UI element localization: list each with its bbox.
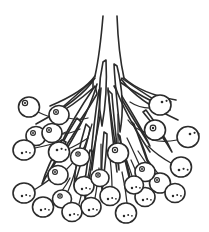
berry xyxy=(71,148,90,166)
berry-speck-dot xyxy=(142,199,144,201)
berry-hilum-dot xyxy=(156,179,158,181)
berry-speck-dot xyxy=(69,214,71,216)
berry-outline xyxy=(71,148,90,166)
berry xyxy=(48,166,68,185)
berry-speck-dot xyxy=(176,194,178,196)
berry-outline xyxy=(177,127,199,148)
berry-speck-dot xyxy=(187,169,189,171)
berry-outline xyxy=(42,124,62,143)
berry xyxy=(165,184,185,203)
berry-hilum-dot xyxy=(48,129,50,131)
berry-outline xyxy=(13,183,35,203)
berry-outline xyxy=(125,176,144,194)
berry-hilum-dot xyxy=(55,111,57,113)
berry-speck-dot xyxy=(81,188,83,190)
berry-speck-dot xyxy=(40,209,42,211)
berry-hilum-dot xyxy=(59,195,61,197)
berry-speck-dot xyxy=(107,198,109,200)
berry-outline xyxy=(165,184,185,203)
berry xyxy=(42,124,62,143)
berry xyxy=(125,176,144,194)
berry-speck-dot xyxy=(123,215,125,217)
berry-outline xyxy=(49,106,69,125)
berry xyxy=(13,183,35,203)
berry-speck-dot xyxy=(29,152,31,154)
berry xyxy=(91,170,109,187)
berry-hilum-dot xyxy=(97,174,99,176)
berry-speck-dot xyxy=(111,197,113,199)
berry-hilum-dot xyxy=(77,153,79,155)
berry-speck-dot xyxy=(131,215,133,217)
berry-speck-dot xyxy=(150,199,152,201)
berry-speck-dot xyxy=(85,187,87,189)
berry-speck-dot xyxy=(180,195,182,197)
berry-hilum-dot xyxy=(32,132,34,134)
berry xyxy=(81,198,101,217)
berry-speck-dot xyxy=(21,195,23,197)
berry xyxy=(19,97,40,117)
berry-outline xyxy=(48,166,68,185)
berry-speck-dot xyxy=(182,168,184,170)
berry-outline xyxy=(62,203,82,222)
berry-speck-dot xyxy=(170,101,172,103)
berry-outline xyxy=(100,187,120,206)
berry-speck-dot xyxy=(25,151,27,153)
berry-speck-dot xyxy=(77,214,79,216)
illustration-canvas: Line drawing of a drooping berry cluster… xyxy=(0,0,209,232)
berry-speck-dot xyxy=(115,198,117,200)
berry-speck-dot xyxy=(44,208,46,210)
berry xyxy=(145,120,166,140)
berry-outline xyxy=(91,170,109,187)
berry-outline xyxy=(33,197,54,217)
berry-outline xyxy=(116,203,137,223)
berry xyxy=(171,157,192,177)
berry-speck-dot xyxy=(161,101,164,104)
berry xyxy=(100,187,120,206)
berry xyxy=(49,106,69,125)
berry-hilum-dot xyxy=(24,102,26,104)
berry-cluster-drawing xyxy=(0,0,209,232)
berry-speck-dot xyxy=(146,198,148,200)
berry-speck-dot xyxy=(127,214,129,216)
berry xyxy=(177,127,200,148)
berry-speck-dot xyxy=(60,148,62,150)
berry-speck-dot xyxy=(96,209,98,211)
berry-hilum-dot xyxy=(114,149,116,151)
berry-speck-dot xyxy=(92,208,94,210)
berry-outline xyxy=(149,95,171,115)
berry-speck-dot xyxy=(65,149,67,151)
berry xyxy=(13,140,35,160)
berry-speck-dot xyxy=(21,152,23,154)
berry-speck-dot xyxy=(73,213,75,215)
berry-speck-dot xyxy=(48,209,50,211)
berry xyxy=(49,142,70,162)
berry-speck-dot xyxy=(25,194,27,196)
berry xyxy=(149,95,172,115)
berry-outline xyxy=(171,157,192,177)
berry-speck-dot xyxy=(172,195,174,197)
berry xyxy=(62,203,82,222)
berry-hilum-dot xyxy=(54,171,56,173)
berry-speck-dot xyxy=(198,133,200,135)
berry-speck-dot xyxy=(189,133,192,136)
berry-speck-dot xyxy=(88,209,90,211)
berry-speck-dot xyxy=(131,187,133,189)
berry-hilum-dot xyxy=(141,168,143,170)
berry-outline xyxy=(49,142,70,162)
berry-outline xyxy=(19,97,40,117)
berry-outline xyxy=(13,140,35,160)
berry-speck-dot xyxy=(29,195,31,197)
berry-hilum-dot xyxy=(152,127,154,129)
berry-outline xyxy=(108,143,129,163)
berry xyxy=(108,143,129,163)
berry xyxy=(33,197,54,217)
berry-speck-dot xyxy=(165,100,167,102)
berry-speck-dot xyxy=(178,169,181,172)
berry-speck-dot xyxy=(139,187,141,189)
berry-speck-dot xyxy=(135,186,137,188)
berry-speck-dot xyxy=(56,149,59,152)
berry-outline xyxy=(81,198,101,217)
berry-speck-dot xyxy=(193,132,195,134)
berry xyxy=(116,203,137,223)
berry-speck-dot xyxy=(89,188,91,190)
